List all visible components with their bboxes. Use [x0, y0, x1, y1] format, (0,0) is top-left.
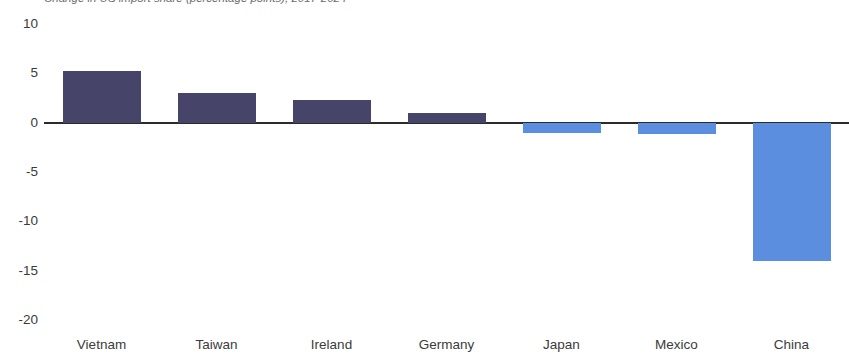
- bar-japan: [523, 123, 601, 133]
- y-axis-tick-label: -10: [0, 214, 38, 228]
- y-axis-tick-label: 10: [0, 17, 38, 31]
- x-axis-tick-label: Germany: [389, 337, 504, 353]
- x-axis-tick-label: Vietnam: [44, 337, 159, 353]
- x-axis-tick-label: Ireland: [274, 337, 389, 353]
- bar-chart: Change in US import share (percentage po…: [0, 0, 849, 363]
- x-axis-tick-label: Mexico: [619, 337, 734, 353]
- bar-taiwan: [178, 93, 256, 123]
- y-axis-tick-label: 0: [0, 116, 38, 130]
- bar-ireland: [293, 100, 371, 123]
- y-axis-tick-label: -5: [0, 165, 38, 179]
- bar-germany: [408, 113, 486, 123]
- bar-vietnam: [63, 71, 141, 122]
- bar-china: [753, 123, 831, 261]
- y-axis-tick-label: 5: [0, 66, 38, 80]
- x-axis-tick-label: China: [734, 337, 849, 353]
- bar-mexico: [638, 123, 716, 135]
- x-axis-tick-label: Taiwan: [159, 337, 274, 353]
- y-axis-tick-label: -15: [0, 264, 38, 278]
- y-axis-tick-label: -20: [0, 313, 38, 327]
- plot-area: [44, 0, 849, 330]
- x-axis-tick-label: Japan: [504, 337, 619, 353]
